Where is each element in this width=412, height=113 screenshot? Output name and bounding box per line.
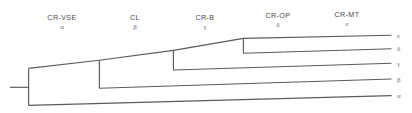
branch-node3-to-node4 [173, 38, 243, 50]
column-headers-group: CR-VSE α CL β CR-B γ CR-OP δ CR-MT ε [47, 10, 359, 31]
leaf-label-delta: δ [397, 45, 401, 53]
column-header-greek-4: ε [346, 20, 349, 28]
leaf-branch-delta [243, 49, 391, 53]
column-header-greek-0: α [60, 23, 64, 31]
column-header-name-2: CR-B [196, 13, 215, 22]
leaf-branch-epsilon [243, 35, 391, 38]
branch-root-to-node2 [29, 60, 100, 68]
column-header-greek-3: δ [276, 21, 280, 29]
column-header-name-3: CR-OP [266, 11, 291, 20]
column-header-name-0: CR-VSE [47, 13, 76, 22]
leaf-label-alpha: α [397, 92, 401, 100]
leaf-label-gamma: γ [396, 60, 400, 68]
branch-node2-to-node3 [99, 50, 173, 60]
leaf-branch-alpha [29, 96, 392, 106]
leaf-labels-group: ε δ γ β α [396, 32, 401, 100]
column-header-greek-2: γ [202, 23, 206, 31]
leaf-label-epsilon: ε [397, 32, 400, 40]
column-header-name-4: CR-MT [335, 10, 360, 19]
cladogram-svg: CR-VSE α CL β CR-B γ CR-OP δ CR-MT ε [0, 0, 412, 113]
leaf-branch-beta [99, 79, 391, 88]
column-header-name-1: CL [130, 13, 140, 22]
cladogram-figure: CR-VSE α CL β CR-B γ CR-OP δ CR-MT ε [0, 0, 412, 113]
leaf-label-beta: β [397, 76, 401, 84]
leaf-branch-gamma [173, 63, 391, 70]
tree-branches-group [10, 35, 392, 105]
column-header-greek-1: β [133, 23, 137, 31]
